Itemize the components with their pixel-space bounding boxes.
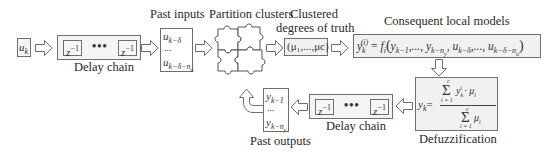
arrow-right-icon [35,40,53,56]
clustered-degrees-box: (μ₁,...,μc) [284,38,328,56]
past-outputs-label: Past outputs [250,134,311,149]
delay-chain-bottom-label: Delay chain [326,119,386,134]
consequent-formula: yk(i) = fi(yk−1,..., yk−ny, uk−δ,..., uk… [357,38,524,57]
delay-element-left: z−1 [63,40,82,56]
delay-ellipsis: ••• [344,98,360,113]
arrow-right-icon [141,40,159,56]
feedback-arrow-up-icon [240,88,264,116]
arrow-right-icon [266,40,284,56]
arrow-down-icon [431,59,447,77]
delay-chain-top: z−1 ••• z−1 [57,35,141,60]
delay-element-left: z−1 [315,99,334,115]
past-inputs-box: uk−δ ... uk−δ−nu [160,28,193,72]
clustered-formula: (μ₁,...,μc) [287,40,329,52]
arrow-right-icon [195,40,213,56]
consequent-box: yk(i) = fi(yk−1,..., yk−ny, uk−δ,..., uk… [353,34,541,58]
input-subscript: k [25,47,29,56]
puzzle-icon [214,23,268,79]
past-inputs-label: Past inputs [150,7,205,22]
numerator: yki · μi [456,85,476,98]
partition-clusters-label: Partition clusters [209,7,293,22]
arrow-left-icon [395,98,413,114]
clustered-label-line1: Clustered [290,7,338,22]
input-uk-box: uk [17,38,31,57]
past-outputs-box: yk−1 ... yk−ny [263,88,289,132]
delay-chain-bottom: z−1 ••• z−1 [309,94,393,119]
delay-chain-top-label: Delay chain [74,60,134,75]
delay-element-right: z−1 [118,40,137,56]
delay-ellipsis: ••• [92,39,108,54]
clustered-label-line2: degrees of truth [276,21,354,36]
defuzzification-label: Defuzzification [419,132,497,147]
past-outputs-ellipsis: ... [267,102,275,113]
consequent-label: Consequent local models [384,14,510,29]
denominator: μi [474,112,481,125]
delay-element-right: z−1 [370,99,389,115]
past-inputs-ellipsis: ... [164,42,172,53]
arrow-right-icon [331,40,349,56]
defuzzification-box: yk= c Σ yki · μi i = 1 c Σ μi i = 1 [415,77,498,131]
arrow-left-icon [290,99,308,115]
